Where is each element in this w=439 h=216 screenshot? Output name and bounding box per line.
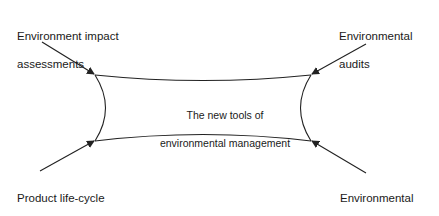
label-line: assessments xyxy=(17,57,119,71)
tool-label-bottom-right: Environmental accounting xyxy=(340,177,414,216)
tool-label-bottom-left: Product life-cycle analysis xyxy=(17,177,105,216)
center-label: The new tools of environmental managemen… xyxy=(150,94,300,164)
label-line: Environment impact xyxy=(17,29,119,43)
label-line: Product life-cycle xyxy=(17,191,105,205)
center-line: The new tools of xyxy=(150,108,300,122)
arrow-bottom-left xyxy=(40,141,94,171)
tool-label-top-left: Environment impact assessments xyxy=(17,15,119,85)
center-line: environmental management xyxy=(150,136,300,150)
tool-label-top-right: Environmental audits xyxy=(339,15,413,85)
label-line: Environmental xyxy=(340,191,414,205)
label-line: audits xyxy=(339,57,413,71)
label-line: Environmental xyxy=(339,29,413,43)
arrow-bottom-right xyxy=(312,141,366,173)
